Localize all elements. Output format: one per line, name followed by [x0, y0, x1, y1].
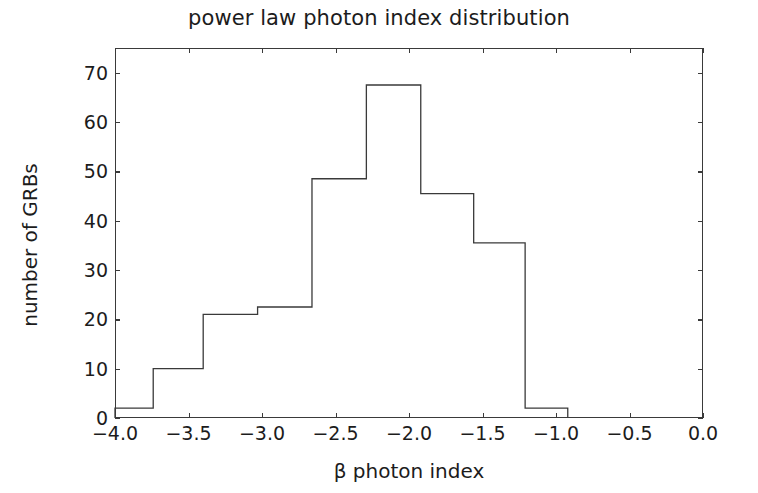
x-tick-label: −3.0 — [239, 422, 285, 444]
y-tick-mark-right — [698, 171, 703, 172]
histogram-outline — [115, 48, 703, 418]
x-tick-mark — [483, 413, 484, 418]
x-tick-mark — [189, 413, 190, 418]
y-tick-mark-right — [698, 73, 703, 74]
x-tick-mark-top — [262, 48, 263, 53]
x-tick-mark-top — [483, 48, 484, 53]
x-tick-label: −2.0 — [386, 422, 432, 444]
x-tick-label: −1.5 — [459, 422, 505, 444]
x-tick-label: −1.0 — [533, 422, 579, 444]
y-tick-label: 60 — [84, 111, 108, 133]
x-tick-mark-top — [189, 48, 190, 53]
x-tick-label: 0.0 — [688, 422, 718, 444]
y-tick-mark — [115, 221, 120, 222]
x-tick-mark-top — [556, 48, 557, 53]
y-tick-mark-right — [698, 369, 703, 370]
y-tick-mark-right — [698, 122, 703, 123]
y-axis-tick-labels: 010203040506070 — [58, 0, 108, 493]
y-tick-mark — [115, 171, 120, 172]
y-tick-label: 30 — [84, 259, 108, 281]
y-tick-mark — [115, 73, 120, 74]
y-tick-mark — [115, 319, 120, 320]
x-tick-mark — [262, 413, 263, 418]
x-tick-mark — [703, 413, 704, 418]
y-tick-label: 10 — [84, 358, 108, 380]
x-tick-label: −0.5 — [606, 422, 652, 444]
y-tick-mark-right — [698, 319, 703, 320]
x-tick-mark-top — [703, 48, 704, 53]
histogram-step-path — [115, 85, 568, 418]
y-tick-mark — [115, 122, 120, 123]
y-tick-mark-right — [698, 270, 703, 271]
x-tick-label: −2.5 — [312, 422, 358, 444]
x-tick-label: −4.0 — [92, 422, 138, 444]
y-tick-label: 70 — [84, 62, 108, 84]
y-tick-label: 20 — [84, 308, 108, 330]
y-tick-mark — [115, 369, 120, 370]
x-tick-mark-top — [336, 48, 337, 53]
x-tick-mark-top — [115, 48, 116, 53]
y-tick-label: 40 — [84, 210, 108, 232]
chart-figure: power law photon index distribution 0102… — [0, 0, 758, 493]
x-tick-mark-top — [409, 48, 410, 53]
y-tick-mark — [115, 270, 120, 271]
x-axis-label: β photon index — [115, 459, 703, 483]
y-axis-label: number of GRBs — [18, 130, 42, 360]
x-tick-mark — [336, 413, 337, 418]
y-tick-mark-right — [698, 221, 703, 222]
x-tick-mark — [556, 413, 557, 418]
plot-area — [115, 48, 703, 418]
y-tick-mark — [115, 418, 120, 419]
x-tick-mark-top — [630, 48, 631, 53]
x-tick-label: −3.5 — [165, 422, 211, 444]
x-tick-mark — [630, 413, 631, 418]
y-tick-label: 50 — [84, 160, 108, 182]
y-tick-mark-right — [698, 418, 703, 419]
x-tick-mark — [409, 413, 410, 418]
chart-title: power law photon index distribution — [0, 6, 758, 30]
